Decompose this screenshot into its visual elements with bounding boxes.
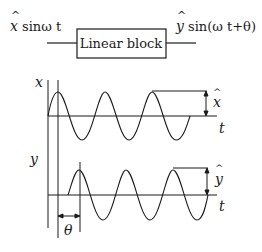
output-rest: sin(ω t+θ) — [188, 19, 256, 34]
output-var: y — [175, 18, 185, 34]
bottom-axis-label: y — [29, 151, 39, 167]
bottom-time-label: t — [219, 198, 225, 214]
block-diagram: Linear block ^ x sinω t ^ y sin(ω t+θ) ^… — [0, 0, 262, 252]
input-var: x — [10, 18, 18, 34]
phase-label: θ — [64, 222, 73, 238]
input-rest: sinω t — [22, 19, 62, 34]
linear-block-label: Linear block — [80, 36, 163, 51]
output-amplitude-marker — [173, 168, 209, 195]
top-axis-label: x — [35, 74, 43, 90]
input-amplitude-label: x — [213, 94, 221, 110]
output-amplitude-label: y — [214, 171, 224, 187]
input-amplitude-marker — [152, 91, 208, 116]
top-time-label: t — [219, 120, 225, 136]
